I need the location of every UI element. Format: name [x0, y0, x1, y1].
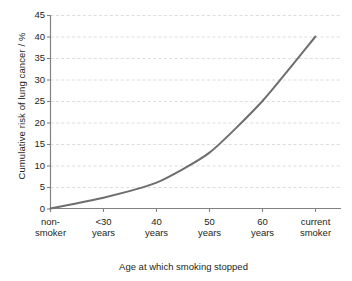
- y-axis-tick-label: 20: [23, 118, 45, 128]
- y-axis-tick-label: 30: [23, 75, 45, 85]
- data-series-line: [51, 37, 316, 209]
- y-axis-tick-label: 0: [23, 204, 45, 214]
- y-axis-tick-label: 15: [23, 139, 45, 149]
- y-axis-tick-label: 40: [23, 32, 45, 42]
- plot-area: [0, 0, 352, 281]
- x-axis-tick-label-line1: current: [285, 216, 347, 228]
- y-axis-tick-label: 5: [23, 182, 45, 192]
- chart-figure: Cumulative risk of lung cancer / % 05101…: [0, 0, 352, 281]
- y-axis-tick-label: 25: [23, 96, 45, 106]
- x-axis-title: Age at which smoking stopped: [46, 261, 321, 272]
- x-axis-tick-label: currentsmoker: [285, 216, 347, 239]
- y-axis-tick-label: 10: [23, 161, 45, 171]
- x-axis-tick-label-line2: smoker: [285, 227, 347, 239]
- y-axis-tick-label: 35: [23, 53, 45, 63]
- y-axis-tick-label: 45: [23, 10, 45, 20]
